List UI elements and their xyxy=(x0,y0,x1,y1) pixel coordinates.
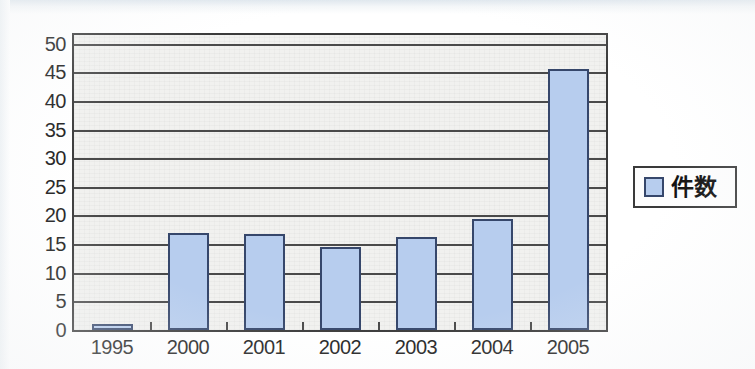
bar-chart-figure: 05101520253035404550 1995200020012002200… xyxy=(0,0,755,369)
y-tick-label-0: 0 xyxy=(4,319,66,342)
bar-2004 xyxy=(472,219,513,330)
x-tick-label-2000: 2000 xyxy=(167,336,210,359)
x-tick-label-2005: 2005 xyxy=(547,336,590,359)
bar-2000 xyxy=(168,233,209,330)
gridline-45 xyxy=(74,72,606,74)
gridline-30 xyxy=(74,158,606,160)
y-tick-label-35: 35 xyxy=(4,118,66,141)
x-tick-mark-2 xyxy=(226,322,228,330)
x-tick-mark-6 xyxy=(530,322,532,330)
bar-2002 xyxy=(320,247,361,330)
y-tick-label-20: 20 xyxy=(4,204,66,227)
x-tick-label-2001: 2001 xyxy=(243,336,286,359)
y-axis-tick-labels: 05101520253035404550 xyxy=(0,0,66,369)
bar-2005 xyxy=(548,69,589,330)
chart-legend: 件数 xyxy=(633,166,737,208)
x-tick-label-1995: 1995 xyxy=(91,336,134,359)
y-tick-label-45: 45 xyxy=(4,61,66,84)
x-tick-mark-5 xyxy=(454,322,456,330)
plot-area xyxy=(72,33,608,332)
gridline-20 xyxy=(74,215,606,217)
legend-label-kensuu: 件数 xyxy=(671,176,717,199)
y-tick-label-25: 25 xyxy=(4,175,66,198)
x-tick-mark-3 xyxy=(302,322,304,330)
y-tick-label-15: 15 xyxy=(4,233,66,256)
x-tick-label-2003: 2003 xyxy=(395,336,438,359)
y-tick-label-10: 10 xyxy=(4,261,66,284)
gridline-15 xyxy=(74,244,606,246)
legend-swatch-kensuu xyxy=(644,177,664,197)
x-tick-mark-4 xyxy=(378,322,380,330)
x-tick-label-2002: 2002 xyxy=(319,336,362,359)
gridline-40 xyxy=(74,101,606,103)
gridline-35 xyxy=(74,130,606,132)
x-tick-label-2004: 2004 xyxy=(471,336,514,359)
y-tick-label-5: 5 xyxy=(4,290,66,313)
bar-2001 xyxy=(244,234,285,330)
bar-2003 xyxy=(396,237,437,330)
y-tick-label-40: 40 xyxy=(4,89,66,112)
x-tick-mark-1 xyxy=(150,322,152,330)
bar-1995 xyxy=(92,324,133,330)
gridline-50 xyxy=(74,44,606,46)
y-tick-label-50: 50 xyxy=(4,32,66,55)
y-tick-label-30: 30 xyxy=(4,147,66,170)
gridline-25 xyxy=(74,187,606,189)
